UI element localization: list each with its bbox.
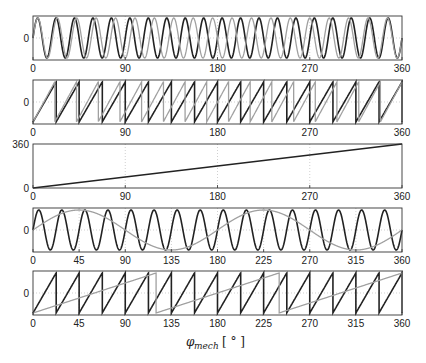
y-tick-label: 0 <box>23 288 29 299</box>
x-tick-label: 360 <box>394 191 411 202</box>
x-tick-label: 90 <box>120 255 132 266</box>
x-tick-label: 45 <box>74 255 86 266</box>
x-tick-label: 270 <box>301 191 318 202</box>
y-tick-label: 0 <box>23 97 29 108</box>
x-tick-label: 225 <box>255 318 272 329</box>
x-tick-label: 315 <box>348 255 365 266</box>
y-tick-label: 360 <box>12 139 29 150</box>
y-tick-label: 0 <box>23 225 29 236</box>
subplot-2: 0901802703600 <box>23 80 410 138</box>
x-tick-label: 0 <box>30 191 36 202</box>
x-tick-label: 360 <box>394 127 411 138</box>
x-tick-label: 270 <box>301 255 318 266</box>
x-axis-label: φ mech [ ° ] <box>186 335 245 351</box>
x-tick-label: 180 <box>209 63 226 74</box>
x-tick-label: 135 <box>163 318 180 329</box>
subplots: 0901802703600090180270360009018027036003… <box>12 16 410 329</box>
x-tick-label: 315 <box>348 318 365 329</box>
x-tick-label: 180 <box>209 191 226 202</box>
subplot-1: 0901802703600 <box>23 16 410 74</box>
x-tick-label: 45 <box>74 318 86 329</box>
x-tick-label: 180 <box>209 255 226 266</box>
x-tick-label: 180 <box>209 318 226 329</box>
y-tick-label: 0 <box>23 33 29 44</box>
subplot-4: 045901351802252703153600 <box>23 208 410 266</box>
x-tick-label: 270 <box>301 63 318 74</box>
x-tick-label: 90 <box>120 191 132 202</box>
xlabel-unit: [ ° ] <box>222 335 245 349</box>
x-tick-label: 90 <box>120 63 132 74</box>
x-tick-label: 360 <box>394 318 411 329</box>
figure: 0901802703600090180270360009018027036003… <box>0 0 426 363</box>
x-tick-label: 0 <box>30 63 36 74</box>
x-tick-label: 270 <box>301 318 318 329</box>
x-tick-label: 135 <box>163 255 180 266</box>
x-tick-label: 180 <box>209 127 226 138</box>
x-tick-label: 360 <box>394 63 411 74</box>
y-tick-label: 0 <box>23 183 29 194</box>
subplot-3: 0901802703600360 <box>12 139 410 202</box>
x-tick-label: 360 <box>394 255 411 266</box>
x-tick-label: 225 <box>255 255 272 266</box>
x-tick-label: 0 <box>30 318 36 329</box>
x-tick-label: 0 <box>30 255 36 266</box>
x-tick-label: 270 <box>301 127 318 138</box>
x-tick-label: 90 <box>120 318 132 329</box>
x-tick-label: 0 <box>30 127 36 138</box>
subplot-5: 045901351802252703153600 <box>23 271 410 329</box>
x-tick-label: 90 <box>120 127 132 138</box>
xlabel-subscript: mech <box>194 341 219 351</box>
